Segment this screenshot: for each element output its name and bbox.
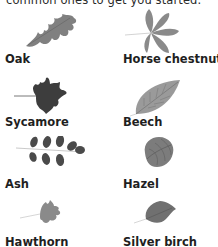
leaf-label-beech: Beech [123, 115, 162, 129]
leaf-label-silver-birch: Silver birch [123, 235, 197, 247]
ash-leaf-icon [14, 136, 86, 172]
beech-leaf-icon [130, 76, 186, 118]
leaf-label-hawthorn: Hawthorn [5, 235, 68, 247]
oak-leaf-icon [22, 12, 80, 50]
leaf-label-ash: Ash [5, 177, 29, 191]
sycamore-leaf-icon [14, 74, 76, 118]
intro-text: common ones to get you started. [6, 0, 201, 7]
leaf-label-sycamore: Sycamore [5, 115, 69, 129]
leaf-label-oak: Oak [5, 52, 30, 66]
hazel-leaf-icon [141, 135, 177, 169]
leaf-label-hazel: Hazel [123, 177, 159, 191]
horse-chestnut-leaf-icon [125, 7, 185, 55]
hawthorn-leaf-icon [20, 198, 66, 226]
silver-birch-leaf-icon [134, 199, 180, 227]
leaf-label-horse-chestnut: Horse chestnut [123, 52, 218, 66]
